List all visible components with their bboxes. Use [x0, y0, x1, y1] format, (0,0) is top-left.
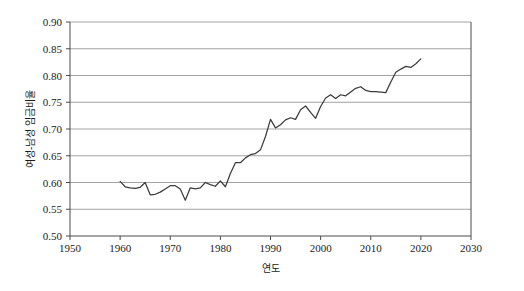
- x-tick-label: 1990: [260, 242, 283, 254]
- x-tick-label: 2010: [360, 242, 383, 254]
- line-chart: 195019601970198019902000201020202030 0.5…: [0, 0, 524, 291]
- x-axis-tick-labels: 195019601970198019902000201020202030: [59, 242, 483, 254]
- y-tick-label: 0.75: [43, 96, 63, 108]
- x-tick-label: 2030: [460, 242, 483, 254]
- y-tick-label: 0.70: [43, 123, 63, 135]
- y-tick-label: 0.90: [43, 16, 63, 28]
- y-axis-tick-labels: 0.500.550.600.650.700.750.800.850.90: [43, 16, 63, 242]
- chart-container: 195019601970198019902000201020202030 0.5…: [0, 0, 524, 291]
- x-tick-label: 1970: [159, 242, 182, 254]
- y-tick-label: 0.50: [43, 230, 63, 242]
- x-tick-label: 1960: [109, 242, 132, 254]
- x-tick-label: 1980: [209, 242, 232, 254]
- y-tick-label: 0.60: [43, 177, 63, 189]
- x-tick-label: 1950: [59, 242, 82, 254]
- y-tick-label: 0.65: [43, 150, 63, 162]
- x-axis-title: 연도: [262, 263, 280, 274]
- x-tick-label: 2020: [410, 242, 433, 254]
- x-tick-label: 2000: [310, 242, 333, 254]
- y-tick-label: 0.80: [43, 70, 63, 82]
- y-tick-label: 0.85: [43, 43, 63, 55]
- y-axis-title: 여성-남성 임금비율: [24, 90, 36, 168]
- y-tick-label: 0.55: [43, 203, 63, 215]
